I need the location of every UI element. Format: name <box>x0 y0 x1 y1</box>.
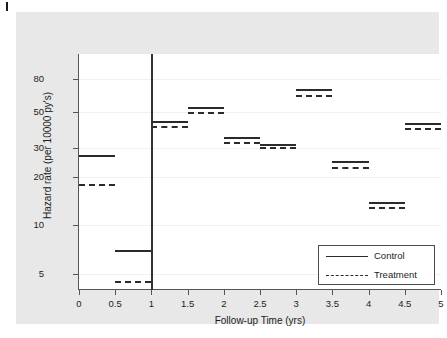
x-tick-label: 4 <box>366 298 371 309</box>
y-tick-mark <box>73 79 78 80</box>
x-tick-label: 3 <box>294 298 299 309</box>
data-segment-treatment <box>369 207 405 209</box>
gridline-y <box>79 177 441 178</box>
data-segment-treatment <box>224 142 260 144</box>
data-segment-treatment <box>332 167 368 169</box>
chart-page: 51020305080 00.511.522.533.544.55 Hazard… <box>0 0 447 338</box>
x-tick-mark <box>224 290 225 295</box>
legend-label: Control <box>374 250 405 261</box>
legend-item-control: Control <box>319 247 434 266</box>
x-tick-label: 1.5 <box>181 298 194 309</box>
gridline-y <box>79 225 441 226</box>
x-tick-mark <box>405 290 406 295</box>
x-tick-mark <box>260 290 261 295</box>
data-segment-control <box>296 89 332 91</box>
data-segment-control <box>260 144 296 146</box>
legend-label: Treatment <box>374 269 417 280</box>
data-segment-treatment <box>151 126 187 128</box>
data-segment-control <box>79 155 115 157</box>
page-corner-mark <box>6 2 8 11</box>
x-tick-label: 3.5 <box>326 298 339 309</box>
x-tick-label: 1 <box>149 298 154 309</box>
y-tick-mark <box>73 177 78 178</box>
y-axis-title: Hazard rate (per 10000 py's) <box>42 41 53 271</box>
x-tick-mark <box>369 290 370 295</box>
data-segment-control <box>151 121 187 123</box>
data-segment-treatment <box>115 281 151 283</box>
y-axis-line <box>78 54 79 290</box>
x-tick-label: 5 <box>438 298 443 309</box>
legend-line-sample-control <box>326 256 368 257</box>
gridline-y <box>79 79 441 80</box>
x-axis-title: Follow-up Time (yrs) <box>79 315 441 326</box>
x-tick-mark <box>115 290 116 295</box>
data-segment-control <box>369 202 405 204</box>
y-tick-mark <box>73 225 78 226</box>
x-tick-mark <box>151 290 152 295</box>
data-segment-control <box>332 161 368 163</box>
x-tick-mark <box>441 290 442 295</box>
data-segment-treatment <box>405 128 441 130</box>
x-tick-mark <box>188 290 189 295</box>
y-tick-mark <box>73 274 78 275</box>
x-tick-mark <box>332 290 333 295</box>
legend-line-sample-treatment <box>326 275 368 276</box>
figure-panel: 51020305080 00.511.522.533.544.55 Hazard… <box>16 12 439 324</box>
data-segment-control <box>405 123 441 125</box>
data-segment-treatment <box>188 112 224 114</box>
x-tick-mark <box>296 290 297 295</box>
data-segment-control <box>115 250 151 252</box>
y-tick-mark <box>73 148 78 149</box>
x-tick-mark <box>79 290 80 295</box>
x-tick-label: 4.5 <box>398 298 411 309</box>
data-segment-treatment <box>260 147 296 149</box>
y-tick-mark <box>73 112 78 113</box>
data-segment-treatment <box>296 95 332 97</box>
x-tick-label: 2 <box>221 298 226 309</box>
vertical-reference-line <box>151 54 153 290</box>
data-segment-treatment <box>79 184 115 186</box>
x-tick-label: 0 <box>76 298 81 309</box>
chart-legend: ControlTreatment <box>318 245 435 285</box>
x-tick-label: 0.5 <box>109 298 122 309</box>
x-tick-label: 2.5 <box>253 298 266 309</box>
data-segment-control <box>224 137 260 139</box>
data-segment-control <box>188 107 224 109</box>
legend-item-treatment: Treatment <box>319 266 434 285</box>
gridline-y <box>79 112 441 113</box>
